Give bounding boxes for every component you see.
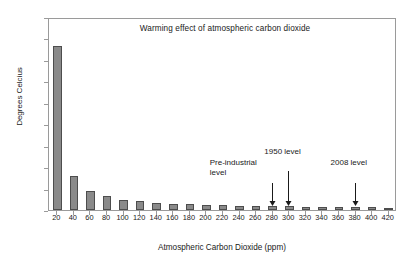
y-tick-mark [44, 18, 48, 19]
bar [252, 206, 261, 210]
bar [219, 205, 228, 210]
bar [86, 191, 95, 210]
bar [202, 205, 211, 210]
x-tick-label: 420 [368, 214, 408, 221]
y-tick-mark [44, 61, 48, 62]
bar [186, 204, 195, 210]
bar [103, 196, 112, 210]
bar [136, 201, 145, 210]
annotation-label: Pre-industrial level [210, 158, 257, 178]
bar [318, 207, 327, 210]
bar [384, 208, 393, 210]
bar [285, 206, 294, 210]
bar [169, 204, 178, 210]
plot-area [48, 18, 396, 211]
annotation-arrow-line [272, 183, 273, 202]
bar [235, 206, 244, 210]
x-axis-label: Atmospheric Carbon Dioxide (ppm) [48, 243, 396, 252]
annotation-arrow-line [288, 171, 289, 202]
bar [70, 176, 79, 210]
annotation-arrow-line [355, 183, 356, 202]
chart-container: Warming effect of atmospheric carbon dio… [0, 0, 412, 261]
annotation-label: 2008 level [331, 158, 367, 168]
bar [268, 206, 277, 210]
y-tick-mark [44, 82, 48, 83]
bar [335, 207, 344, 210]
chart-title: Warming effect of atmospheric carbon dio… [60, 24, 390, 33]
y-tick-mark [44, 168, 48, 169]
y-tick-mark [44, 104, 48, 105]
bar [53, 46, 62, 210]
annotation-arrow-head [352, 201, 358, 206]
y-axis-label: Degrees Celcius [15, 47, 24, 147]
bar [368, 207, 377, 210]
y-tick-mark [44, 39, 48, 40]
annotation-label: 1950 level [264, 147, 300, 157]
bars-layer [49, 19, 395, 210]
bar [302, 207, 311, 210]
y-tick-mark [44, 211, 48, 212]
x-tick-mark [388, 211, 389, 215]
annotation-arrow-head [286, 201, 292, 206]
y-tick-mark [44, 125, 48, 126]
bar [152, 203, 161, 211]
bar [351, 207, 360, 210]
annotation-arrow-head [269, 201, 275, 206]
bar [119, 200, 128, 210]
y-tick-mark [44, 147, 48, 148]
y-tick-mark [44, 190, 48, 191]
